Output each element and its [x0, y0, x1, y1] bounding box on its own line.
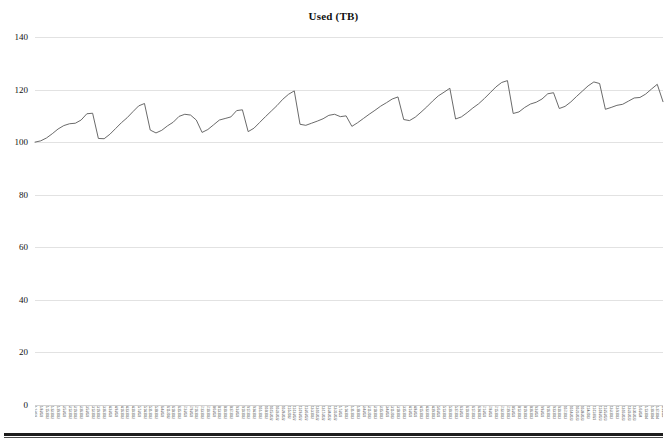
x-tick-label: 7/16/2022 [194, 406, 197, 419]
x-tick-label: 9/2/2023 [534, 406, 537, 417]
x-tick-label: 7/1/2023 [482, 406, 485, 417]
x-tick-label: 9/24/2022 [252, 406, 255, 419]
x-tick-label: 6/4/2022 [159, 406, 162, 417]
x-tick-label: 4/2/2022 [108, 406, 111, 417]
x-tick-label: 2/3/2024 [661, 406, 663, 417]
x-tick-label: 9/30/2023 [557, 406, 560, 419]
y-tick-label: 140 [15, 32, 29, 42]
chart-title: Used (TB) [0, 10, 667, 22]
x-tick-label: 7/2/2022 [182, 406, 185, 417]
x-tick-label: 3/18/2023 [396, 406, 399, 419]
x-tick-label: 11/11/2023 [592, 406, 595, 420]
x-tick-label: 8/12/2023 [517, 406, 520, 419]
x-tick-label: 5/7/2022 [136, 406, 139, 417]
x-tick-label: 1/7/2023 [338, 406, 341, 417]
x-tick-label: 10/29/2022 [280, 406, 283, 420]
x-tick-label: 6/25/2022 [177, 406, 180, 419]
series-line-used-tb [35, 37, 663, 405]
x-tick-label: 2/25/2023 [378, 406, 381, 419]
x-tick-label: 9/3/2022 [234, 406, 237, 417]
x-tick-label: 4/29/2023 [430, 406, 433, 419]
chart-container: Used (TB) 020406080100120140 1/1/20221/8… [0, 0, 667, 448]
x-tick-label: 8/19/2023 [522, 406, 525, 419]
x-tick-label: 2/19/2022 [73, 406, 76, 419]
x-tick-label: 9/23/2023 [551, 406, 554, 419]
y-tick-label: 80 [19, 190, 28, 200]
x-tick-label: 9/10/2022 [240, 406, 243, 419]
x-tick-label: 4/8/2023 [413, 406, 416, 417]
x-tick-label: 6/11/2022 [165, 406, 168, 419]
x-tick-label: 10/22/2022 [275, 406, 278, 420]
x-tick-label: 7/15/2023 [494, 406, 497, 419]
x-tick-label: 4/23/2022 [125, 406, 128, 419]
x-tick-label: 6/3/2023 [459, 406, 462, 417]
series-polyline [35, 81, 663, 143]
x-tick-label: 4/16/2022 [119, 406, 122, 419]
x-tick-label: 11/19/2022 [298, 406, 301, 420]
y-tick-label: 100 [15, 137, 29, 147]
x-tick-label: 1/1/2022 [35, 406, 36, 417]
x-tick-label: 4/30/2022 [131, 406, 134, 419]
x-tick-label: 2/26/2022 [79, 406, 82, 419]
x-tick-label: 7/29/2023 [505, 406, 508, 419]
x-tick-label: 9/17/2022 [246, 406, 249, 419]
bottom-rule-secondary [4, 437, 663, 438]
x-tick-label: 5/28/2022 [154, 406, 157, 419]
x-tick-label: 11/26/2022 [303, 406, 306, 420]
y-axis: 020406080100120140 [0, 37, 33, 405]
x-tick-label: 5/14/2022 [142, 406, 145, 419]
x-tick-label: 2/18/2023 [373, 406, 376, 419]
x-tick-label: 12/23/2023 [626, 406, 629, 420]
x-tick-label: 8/27/2022 [229, 406, 232, 419]
x-tick-label: 3/19/2022 [96, 406, 99, 419]
x-tick-label: 11/5/2022 [286, 406, 289, 419]
x-tick-label: 5/20/2023 [448, 406, 451, 419]
x-tick-label: 2/4/2023 [361, 406, 364, 417]
x-tick-label: 6/24/2023 [476, 406, 479, 419]
x-tick-label: 6/10/2023 [465, 406, 468, 419]
x-tick-label: 10/8/2022 [263, 406, 266, 419]
x-tick-label: 1/21/2023 [350, 406, 353, 419]
x-tick-label: 8/26/2023 [528, 406, 531, 419]
plot-area [35, 37, 663, 405]
x-tick-label: 8/6/2022 [211, 406, 214, 417]
x-tick-label: 8/20/2022 [223, 406, 226, 419]
x-tick-label: 12/16/2023 [620, 406, 623, 420]
x-tick-label: 8/13/2022 [217, 406, 220, 419]
x-tick-label: 9/16/2023 [545, 406, 548, 419]
y-tick-label: 20 [19, 347, 28, 357]
x-tick-label: 12/3/2022 [309, 406, 312, 419]
y-tick-label: 40 [19, 295, 28, 305]
x-tick-label: 3/11/2023 [390, 406, 393, 419]
x-tick-label: 6/17/2023 [471, 406, 474, 419]
x-tick-label: 1/28/2023 [355, 406, 358, 419]
x-tick-label: 9/9/2023 [540, 406, 543, 417]
x-tick-label: 1/27/2024 [655, 406, 658, 419]
x-tick-label: 5/13/2023 [442, 406, 445, 419]
x-tick-label: 7/22/2023 [499, 406, 502, 419]
x-tick-label: 3/12/2022 [90, 406, 93, 419]
x-tick-label: 3/4/2023 [384, 406, 387, 417]
x-tick-label: 10/14/2023 [569, 406, 572, 420]
x-tick-label: 11/12/2022 [292, 406, 295, 420]
x-tick-label: 7/8/2023 [488, 406, 491, 417]
x-tick-label: 2/12/2022 [67, 406, 70, 419]
bottom-rule [4, 433, 663, 436]
x-tick-label: 12/30/2023 [632, 406, 635, 420]
x-tick-label: 11/25/2023 [603, 406, 606, 420]
x-tick-label: 5/6/2023 [436, 406, 439, 417]
x-tick-label: 3/26/2022 [102, 406, 105, 419]
x-tick-label: 1/15/2022 [44, 406, 47, 419]
x-tick-label: 12/9/2023 [615, 406, 618, 419]
x-tick-label: 1/20/2024 [649, 406, 652, 419]
x-tick-label: 10/21/2023 [574, 406, 577, 420]
x-tick-label: 11/18/2023 [597, 406, 600, 420]
x-tick-label: 4/9/2022 [113, 406, 116, 417]
y-tick-label: 60 [19, 242, 28, 252]
x-tick-label: 4/15/2023 [419, 406, 422, 419]
x-tick-label: 1/8/2022 [38, 406, 41, 417]
x-tick-label: 2/11/2023 [367, 406, 370, 419]
x-tick-label: 7/23/2022 [200, 406, 203, 419]
x-tick-label: 12/17/2022 [321, 406, 324, 420]
x-tick-label: 2/5/2022 [62, 406, 65, 417]
